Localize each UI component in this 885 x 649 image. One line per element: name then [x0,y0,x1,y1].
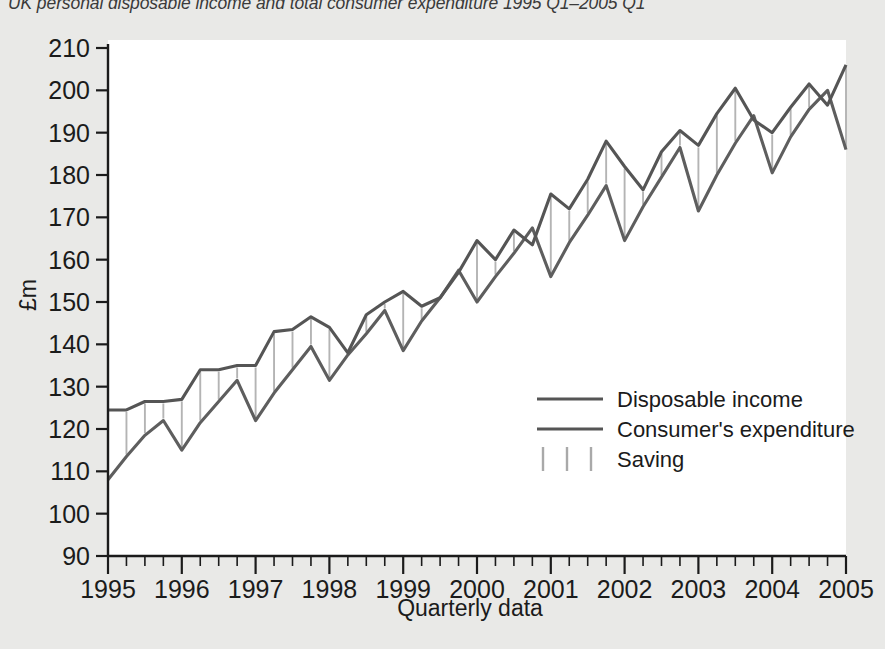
y-tick-label: 110 [50,457,90,485]
y-tick-label: 180 [48,161,90,189]
x-tick-label: 2005 [818,575,874,603]
y-tick-label: 90 [62,542,90,570]
y-tick-label: 170 [48,203,90,231]
x-tick-label: 2004 [744,575,800,603]
x-tick-label: 1998 [302,575,358,603]
y-axis-title: £m [15,279,41,311]
y-tick-label: 160 [48,246,90,274]
x-axis-title: Quarterly data [397,595,543,621]
x-tick-label: 1995 [80,575,136,603]
x-tick-label: 2002 [597,575,653,603]
legend-label-1: Disposable income [617,387,803,412]
legend: Disposable incomeConsumer's expenditureS… [537,387,855,472]
y-tick-label: 210 [48,34,90,62]
x-tick-label: 1997 [228,575,284,603]
y-tick-label: 190 [48,119,90,147]
legend-label-2: Consumer's expenditure [617,417,855,442]
chart-svg: 21020019018017016015014013012011010090 1… [0,0,885,649]
y-tick-label: 120 [48,415,90,443]
x-tick-label: 2003 [671,575,727,603]
y-tick-label: 150 [48,288,90,316]
y-tick-label: 140 [48,330,90,358]
figure-container: UK personal disposable income and total … [0,0,885,649]
y-tick-label: 200 [48,76,90,104]
legend-label-3: Saving [617,447,684,472]
y-tick-label: 100 [48,500,90,528]
x-tick-label: 1996 [154,575,210,603]
y-tick-label: 130 [48,373,90,401]
y-tick-group: 21020019018017016015014013012011010090 [48,34,108,570]
